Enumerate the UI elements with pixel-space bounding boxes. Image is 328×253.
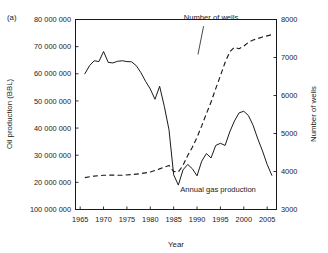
- x-tick-label: 2000: [236, 215, 252, 224]
- y-tick-label-left: 100 000 000: [30, 205, 71, 214]
- y-tick-label-right: 6000: [281, 91, 297, 100]
- chart-annotation: Annual gas production: [180, 185, 256, 194]
- x-tick-label: 1965: [72, 215, 88, 224]
- y-axis-right-tick-labels: 800070006000500040003000: [281, 15, 297, 214]
- y-tick-label-left: 50 000 000: [34, 97, 71, 106]
- y-tick-label-right: 7000: [281, 53, 297, 62]
- x-tick-label: 1970: [95, 215, 111, 224]
- series-number-of-wells: [85, 35, 272, 178]
- y-axis-left-tick-labels: 80 000 00070 000 00060 000 00050 000 000…: [30, 15, 71, 214]
- y-tick-label-right: 5000: [281, 129, 297, 138]
- y-axis-title-right: Number of wells: [309, 86, 318, 142]
- x-axis-tick-labels: 196519701975198019851990199520002005: [72, 215, 275, 224]
- y-tick-label-right: 4000: [281, 167, 297, 176]
- y-tick-label-left: 80 000 000: [34, 15, 71, 24]
- oil-production-wells-chart: (a) 80 000 00070 000 00060 000 00050 000…: [0, 0, 328, 253]
- x-tick-label: 1980: [142, 215, 158, 224]
- panel-label: (a): [7, 13, 17, 22]
- y-axis-title-left: Oil production (BBL): [5, 78, 14, 149]
- chart-annotations: Number of wellsAnnual gas production: [180, 13, 256, 193]
- y-tick-label-left: 70 000 000: [34, 42, 71, 51]
- y-tick-label-left: 60 000 000: [34, 69, 71, 78]
- leader-line-number-of-wells: [198, 26, 204, 54]
- x-tick-label: 1985: [165, 215, 181, 224]
- chart-annotation: Number of wells: [184, 13, 239, 22]
- x-tick-label: 1995: [212, 215, 228, 224]
- y-tick-label-right: 8000: [281, 15, 297, 24]
- x-axis-title: Year: [168, 240, 184, 249]
- x-tick-label: 1990: [189, 215, 205, 224]
- series-annual-gas-production: [85, 52, 272, 186]
- x-tick-label: 1975: [119, 215, 135, 224]
- y-tick-label-left: 30 000 000: [34, 151, 71, 160]
- y-tick-label-left: 20 000 000: [34, 178, 71, 187]
- figure-panel-a: (a) 80 000 00070 000 00060 000 00050 000…: [0, 0, 328, 253]
- x-tick-label: 2005: [259, 215, 275, 224]
- y-tick-label-right: 3000: [281, 205, 297, 214]
- y-tick-label-left: 40 000 000: [34, 124, 71, 133]
